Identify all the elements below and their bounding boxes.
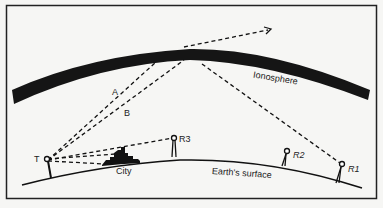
earth-surface-line	[22, 160, 362, 188]
ray-city-line	[48, 161, 105, 164]
ray-city-line-2	[48, 154, 115, 159]
transmitter-antenna-icon	[45, 157, 52, 179]
ray-b-label: B	[124, 108, 130, 118]
receiver-r1-antenna-icon	[336, 162, 345, 184]
ray-r3-line	[48, 138, 173, 160]
city-buildings-icon	[102, 147, 140, 166]
diagram-frame: Ionosphere A B T R3 R2 R1 City Earth's s…	[0, 0, 383, 208]
receiver-r1-label: R1	[348, 164, 360, 174]
receiver-r3-antenna-icon	[172, 136, 177, 158]
ray-a-label: A	[112, 87, 118, 97]
ray-escape-line	[184, 30, 268, 47]
receiver-r2-antenna-icon	[282, 149, 290, 167]
transmitter-label: T	[34, 154, 40, 164]
receiver-r3-label: R3	[179, 134, 191, 144]
city-label: City	[116, 166, 132, 176]
receiver-r2-label: R2	[293, 150, 305, 160]
ionosphere-band	[12, 49, 370, 104]
border	[7, 6, 377, 199]
diagram-canvas	[0, 0, 383, 208]
